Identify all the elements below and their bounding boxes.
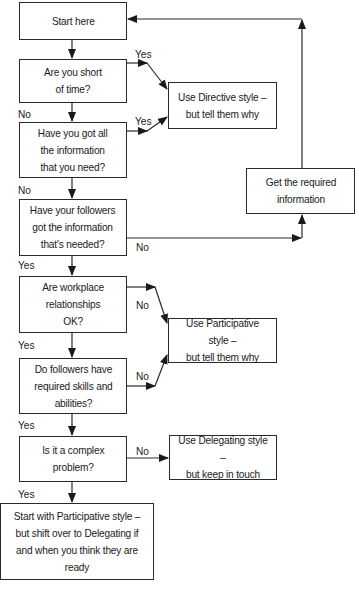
node-text: Get the required information [265, 174, 335, 208]
node-text: Are you short of time? [44, 64, 102, 98]
node-text: Start here [52, 13, 95, 30]
node-get-required-info: Get the required information [246, 168, 355, 214]
node-text: Use Participative style – but tell them … [175, 315, 269, 366]
node-directive-style: Use Directive style – but tell them why [168, 82, 277, 129]
node-start-here: Start here [19, 2, 127, 40]
node-text: Is it a complex problem? [42, 442, 104, 476]
node-complex-problem: Is it a complex problem? [19, 436, 127, 482]
node-text: Are workplace relationships OK? [42, 279, 104, 330]
node-short-of-time: Are you short of time? [19, 59, 127, 103]
label-complex-yes: Yes [18, 488, 35, 500]
node-text: Have you got all the information that yo… [38, 125, 108, 176]
label-short-no: No [18, 108, 31, 120]
node-workplace-relationships: Are workplace relationships OK? [19, 276, 127, 333]
label-workplace-no: No [136, 299, 149, 311]
arrow-workplace-no-to-participative [155, 287, 167, 323]
label-complex-no: No [136, 445, 149, 457]
node-text: Start with Participative style – but shi… [10, 508, 144, 576]
label-followers-yes: Yes [18, 259, 35, 271]
node-text: Use Delegating style – but keep in touch [176, 432, 269, 483]
node-followers-info: Have your followers got the information … [19, 199, 127, 256]
label-followers-no: No [136, 241, 149, 253]
label-skills-no: No [136, 370, 149, 382]
node-required-skills: Do followers have required skills and ab… [19, 358, 127, 414]
node-participative-style: Use Participative style – but tell them … [168, 318, 277, 363]
node-have-info: Have you got all the information that yo… [19, 122, 127, 178]
label-skills-yes: Yes [18, 419, 35, 431]
arrow-short-yes-to-directive [147, 63, 167, 89]
arrow-skills-no-to-participative [155, 355, 167, 386]
label-info-yes: Yes [135, 115, 152, 127]
label-workplace-yes: Yes [18, 339, 35, 351]
node-delegating-style: Use Delegating style – but keep in touch [169, 435, 277, 480]
node-text: Use Directive style – but tell them why [178, 89, 267, 123]
node-text: Have your followers got the information … [30, 202, 116, 253]
label-info-no: No [18, 184, 31, 196]
node-final-recommendation: Start with Participative style – but shi… [0, 503, 154, 580]
node-text: Do followers have required skills and ab… [34, 361, 112, 412]
label-short-yes: Yes [135, 48, 152, 60]
